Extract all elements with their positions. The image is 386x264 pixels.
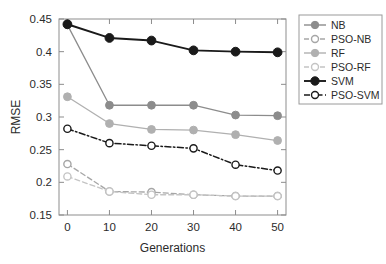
data-point: [190, 191, 197, 198]
series-line: [67, 164, 277, 196]
data-point: [190, 101, 198, 109]
data-point: [273, 48, 282, 57]
y-tick-label: 0.25: [30, 144, 52, 156]
data-point: [232, 131, 240, 139]
legend-label: RF: [331, 47, 345, 59]
legend-marker: [311, 21, 318, 28]
y-tick-label: 0.3: [36, 111, 52, 123]
data-point: [190, 126, 198, 134]
x-axis-title: Generations: [140, 241, 205, 255]
data-point: [274, 192, 281, 199]
series-nb: [64, 21, 282, 120]
y-tick-label: 0.4: [36, 46, 53, 58]
legend[interactable]: NBPSO-NBRFPSO-RFSVMPSO-SVM: [299, 15, 382, 104]
series-line: [67, 24, 277, 52]
series-line: [67, 25, 277, 116]
data-point: [231, 47, 240, 56]
legend-label: SVM: [331, 75, 354, 87]
data-point: [190, 145, 197, 152]
data-point: [232, 161, 239, 168]
data-point: [148, 191, 155, 198]
data-point: [274, 112, 282, 120]
legend-marker: [311, 77, 319, 85]
data-point: [106, 101, 114, 109]
series-line: [67, 97, 277, 141]
data-point: [274, 167, 281, 174]
chart-figure: 0.150.20.250.30.350.40.4501020304050Gene…: [0, 0, 386, 264]
data-point: [274, 137, 282, 145]
x-tick-label: 30: [187, 221, 200, 233]
legend-label: PSO-SVM: [331, 89, 379, 101]
data-point: [148, 101, 156, 109]
x-tick-label: 20: [145, 221, 158, 233]
legend-marker: [312, 92, 319, 99]
data-point: [63, 20, 72, 29]
data-point: [148, 142, 155, 149]
legend-marker: [311, 49, 318, 56]
y-tick-label: 0.45: [30, 13, 52, 25]
series-pso-rf: [64, 173, 281, 200]
legend-marker: [312, 64, 319, 71]
x-tick-label: 50: [271, 221, 284, 233]
data-point: [64, 93, 72, 101]
axis-labels-group: 0.150.20.250.30.350.40.4501020304050Gene…: [9, 13, 284, 255]
data-point: [64, 173, 71, 180]
series-rf: [64, 93, 282, 145]
legend-label: PSO-NB: [331, 33, 371, 45]
data-point: [105, 34, 114, 43]
x-tick-label: 0: [64, 221, 70, 233]
data-series-group: [63, 20, 282, 200]
data-point: [148, 126, 156, 134]
x-tick-label: 40: [229, 221, 242, 233]
data-point: [232, 192, 239, 199]
data-point: [106, 188, 113, 195]
data-point: [106, 120, 114, 128]
data-point: [232, 111, 240, 119]
legend-label: NB: [331, 19, 346, 31]
data-point: [189, 46, 198, 55]
y-tick-label: 0.2: [36, 176, 52, 188]
y-axis-title: RMSE: [9, 100, 23, 135]
legend-label: PSO-RF: [331, 61, 371, 73]
x-tick-label: 10: [103, 221, 116, 233]
series-line: [67, 129, 277, 171]
y-tick-label: 0.15: [30, 209, 52, 221]
data-point: [64, 160, 71, 167]
y-tick-label: 0.35: [30, 78, 52, 90]
data-point: [64, 125, 71, 132]
data-point: [106, 140, 113, 147]
series-pso-svm: [64, 125, 281, 174]
legend-marker: [312, 36, 319, 43]
rmse-vs-generations-chart: 0.150.20.250.30.350.40.4501020304050Gene…: [0, 0, 386, 264]
series-svm: [63, 20, 282, 57]
data-point: [147, 36, 156, 45]
